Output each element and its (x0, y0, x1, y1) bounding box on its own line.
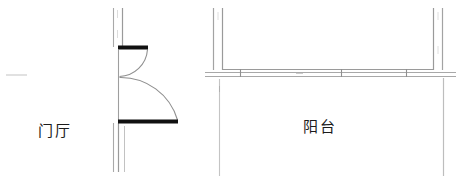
floor-plan-drawing: 门厅 阳台 (0, 0, 457, 176)
plan-background (0, 0, 457, 176)
room-label-foyer: 门厅 (38, 122, 72, 140)
room-label-balcony: 阳台 (303, 118, 337, 136)
door-leaf-upper (118, 46, 148, 50)
door-leaf-lower (118, 120, 178, 124)
